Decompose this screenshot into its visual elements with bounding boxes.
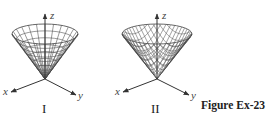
x-axis-label: x [2, 85, 8, 97]
y-axis-arrow-icon [157, 79, 189, 95]
plot-label-II: II [151, 101, 160, 117]
x-axis-arrow-icon [11, 79, 45, 92]
z-axis-label: z [161, 9, 167, 21]
y-axis-label: y [77, 89, 83, 101]
plot-label-I: I [42, 101, 46, 117]
figure-caption: Figure Ex-23 [201, 99, 265, 111]
z-axis-label: z [49, 9, 55, 21]
y-axis-arrow-icon [45, 79, 76, 95]
x-axis-label: x [114, 85, 120, 97]
x-axis-arrow-icon [123, 79, 157, 92]
y-axis-label: y [190, 89, 196, 101]
